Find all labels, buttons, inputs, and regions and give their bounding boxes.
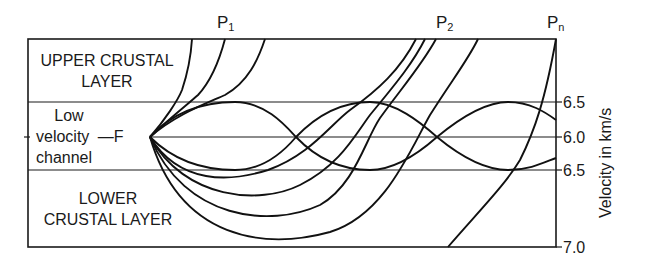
upper-crustal-layer-label: UPPER CRUSTAL LAYER (31, 52, 183, 91)
phase-pn-name: P (547, 13, 558, 32)
phase-p1-name: P (217, 13, 228, 32)
phase-label-p2: P2 (436, 13, 453, 33)
upper-label-line1: UPPER CRUSTAL (31, 52, 183, 70)
channel-label-line2: velocity —F (36, 128, 124, 146)
phase-p1-sub: 1 (228, 21, 234, 33)
channel-label-velocity: velocity (36, 128, 89, 145)
channel-label-line1: Low (44, 107, 94, 125)
lower-label-line1: LOWER (30, 190, 186, 208)
phase-p2-name: P (436, 13, 447, 32)
lower-crustal-layer-label: LOWER CRUSTAL LAYER (30, 190, 186, 229)
phase-label-p1: P1 (217, 13, 234, 33)
phase-label-pn: Pn (547, 13, 564, 33)
focus-label-f: —F (98, 128, 124, 145)
channel-label-line3: channel (36, 149, 92, 167)
phase-p2-sub: 2 (447, 21, 453, 33)
velocity-axis-title: Velocity in km/s (597, 108, 615, 218)
ray-p2-d (150, 39, 478, 239)
ray-paths (150, 39, 556, 247)
channel-wave-lower (150, 102, 556, 170)
velocity-tick-label-7-0: 7.0 (563, 239, 585, 257)
lower-label-line2: CRUSTAL LAYER (30, 211, 186, 229)
velocity-tick-label-6-0: 6.0 (563, 129, 585, 147)
ray-p2-c (150, 39, 436, 216)
velocity-tick-label-6-5-top: 6.5 (563, 94, 585, 112)
upper-label-line2: LAYER (31, 73, 183, 91)
channel-wave-upper (150, 102, 556, 170)
ray-pn (448, 39, 556, 247)
phase-pn-sub: n (558, 21, 564, 33)
velocity-tick-label-6-5-bottom: 6.5 (563, 162, 585, 180)
